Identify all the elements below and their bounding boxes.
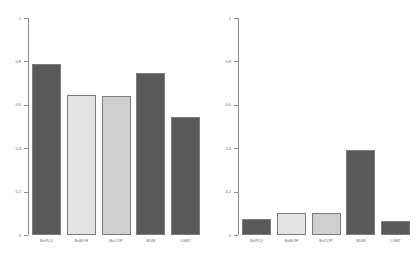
- bar-slot-left-4: [171, 18, 200, 235]
- bar-slot-right-1: [277, 18, 306, 235]
- y-tick-label-left-5: 1: [19, 16, 21, 20]
- y-tick-left-3: 0.6: [24, 105, 28, 106]
- y-tick-left-2: 0.4: [24, 148, 28, 149]
- x-label-right-bscop: BsCOP: [312, 239, 341, 243]
- bar-chart-figure: 0 0.2 0.4 0.6 0.8 1: [0, 0, 420, 261]
- x-label-right-bsplu: BsPLU: [242, 239, 271, 243]
- bar-right-bsbor[interactable]: [277, 213, 306, 235]
- bar-group-left: [32, 18, 200, 235]
- y-tick-label-left-3: 0.6: [15, 103, 21, 107]
- x-label-left-bscop: BsCOP: [102, 239, 131, 243]
- x-label-left-bsbor: BsBOR: [67, 239, 96, 243]
- bar-slot-left-0: [32, 18, 61, 235]
- y-tick-right-2: 0.4: [234, 148, 238, 149]
- x-axis-labels-right: BsPLU BsBOR BsCOP BUM LGBT: [242, 239, 410, 243]
- x-label-right-bum: BUM: [346, 239, 375, 243]
- y-tick-left-5: 1: [24, 18, 28, 19]
- x-label-left-bum: BUM: [136, 239, 165, 243]
- y-tick-right-4: 0.8: [234, 61, 238, 62]
- x-label-left-lgbt: LGBT: [171, 239, 200, 243]
- bar-slot-right-3: [346, 18, 375, 235]
- y-tick-label-right-4: 0.8: [225, 60, 231, 64]
- y-tick-label-left-2: 0.4: [15, 147, 21, 151]
- y-tick-label-right-1: 0.2: [225, 190, 231, 194]
- y-tick-label-right-0: 0: [229, 233, 231, 237]
- y-axis-line-right: [238, 18, 239, 235]
- bar-group-right: [242, 18, 410, 235]
- chart-panel-right: 0 0.2 0.4 0.6 0.8 1: [210, 0, 420, 261]
- bar-slot-left-2: [102, 18, 131, 235]
- bar-left-lgbt[interactable]: [171, 117, 200, 235]
- plot-area-left: 0 0.2 0.4 0.6 0.8 1: [28, 18, 200, 235]
- bar-right-lgbt[interactable]: [381, 221, 410, 235]
- y-tick-label-right-3: 0.6: [225, 103, 231, 107]
- bar-right-bscop[interactable]: [312, 213, 341, 235]
- x-label-right-lgbt: LGBT: [381, 239, 410, 243]
- bar-left-bum[interactable]: [136, 73, 165, 235]
- bar-right-bum[interactable]: [346, 150, 375, 235]
- y-tick-right-3: 0.6: [234, 105, 238, 106]
- chart-panel-left: 0 0.2 0.4 0.6 0.8 1: [0, 0, 210, 261]
- plot-area-right: 0 0.2 0.4 0.6 0.8 1: [238, 18, 410, 235]
- x-label-right-bsbor: BsBOR: [277, 239, 306, 243]
- bar-slot-right-0: [242, 18, 271, 235]
- y-tick-label-left-1: 0.2: [15, 190, 21, 194]
- y-tick-label-right-5: 1: [229, 16, 231, 20]
- y-tick-left-1: 0.2: [24, 192, 28, 193]
- y-tick-right-5: 1: [234, 18, 238, 19]
- bar-left-bsbor[interactable]: [67, 95, 96, 235]
- y-tick-label-left-4: 0.8: [15, 60, 21, 64]
- y-tick-label-left-0: 0: [19, 233, 21, 237]
- bar-right-bsplu[interactable]: [242, 219, 271, 235]
- x-axis-labels-left: BsPLU BsBOR BsCOP BUM LGBT: [32, 239, 200, 243]
- bar-left-bscop[interactable]: [102, 96, 131, 235]
- y-axis-line-left: [28, 18, 29, 235]
- x-label-left-bsplu: BsPLU: [32, 239, 61, 243]
- y-tick-left-4: 0.8: [24, 61, 28, 62]
- y-tick-right-1: 0.2: [234, 192, 238, 193]
- bar-slot-left-1: [67, 18, 96, 235]
- bar-slot-right-2: [312, 18, 341, 235]
- bar-slot-left-3: [136, 18, 165, 235]
- bar-left-bsplu[interactable]: [32, 64, 61, 235]
- y-tick-left-0: 0: [24, 235, 28, 236]
- bar-slot-right-4: [381, 18, 410, 235]
- y-tick-right-0: 0: [234, 235, 238, 236]
- y-tick-label-right-2: 0.4: [225, 147, 231, 151]
